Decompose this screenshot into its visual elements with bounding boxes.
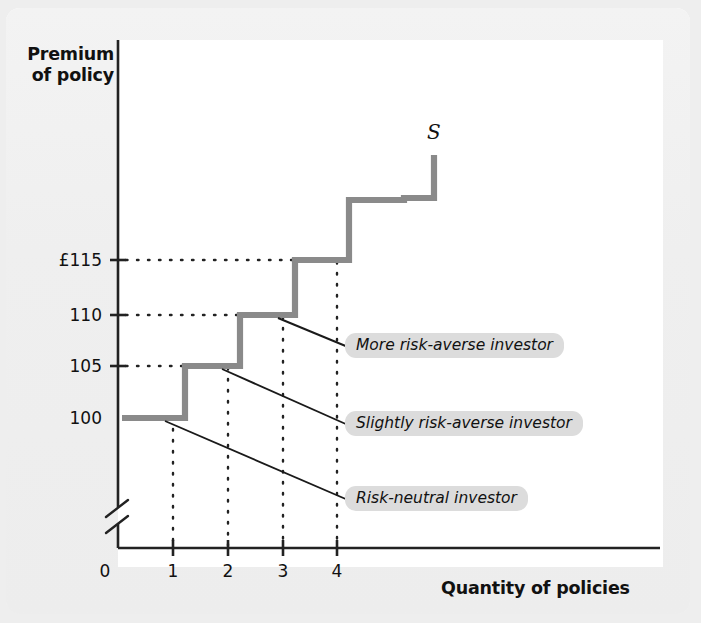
leader-slightly-risk-averse xyxy=(222,369,348,425)
x-tick-label-0: 0 xyxy=(90,561,120,581)
y-axis-title: Premium of policy xyxy=(24,44,114,85)
callout-slightly-risk-averse: Slightly risk-averse investor xyxy=(345,411,583,436)
callout-risk-neutral: Risk-neutral investor xyxy=(345,486,528,511)
callout-leader-lines xyxy=(165,318,348,500)
y-axis-title-line2: of policy xyxy=(24,65,114,86)
supply-step-curve xyxy=(122,155,434,418)
figure-page: Premium of policy Quantity of policies £… xyxy=(0,0,701,623)
y-tick-label-115: £115 xyxy=(30,250,102,270)
y-axis-title-line1: Premium xyxy=(24,44,114,65)
guide-lines xyxy=(126,260,337,548)
chart-drawing xyxy=(0,0,701,623)
supply-curve-label: S xyxy=(427,120,441,144)
leader-risk-neutral xyxy=(165,421,348,500)
x-tick-label-1: 1 xyxy=(158,561,188,581)
callout-more-risk-averse: More risk-averse investor xyxy=(345,333,564,358)
x-axis-title: Quantity of policies xyxy=(441,578,630,599)
leader-more-risk-averse xyxy=(278,318,348,347)
y-tick-label-105: 105 xyxy=(30,356,102,376)
y-tick-label-110: 110 xyxy=(30,305,102,325)
y-tick-label-100: 100 xyxy=(30,408,102,428)
x-tick-label-4: 4 xyxy=(322,561,352,581)
x-tick-label-2: 2 xyxy=(213,561,243,581)
x-tick-label-3: 3 xyxy=(268,561,298,581)
